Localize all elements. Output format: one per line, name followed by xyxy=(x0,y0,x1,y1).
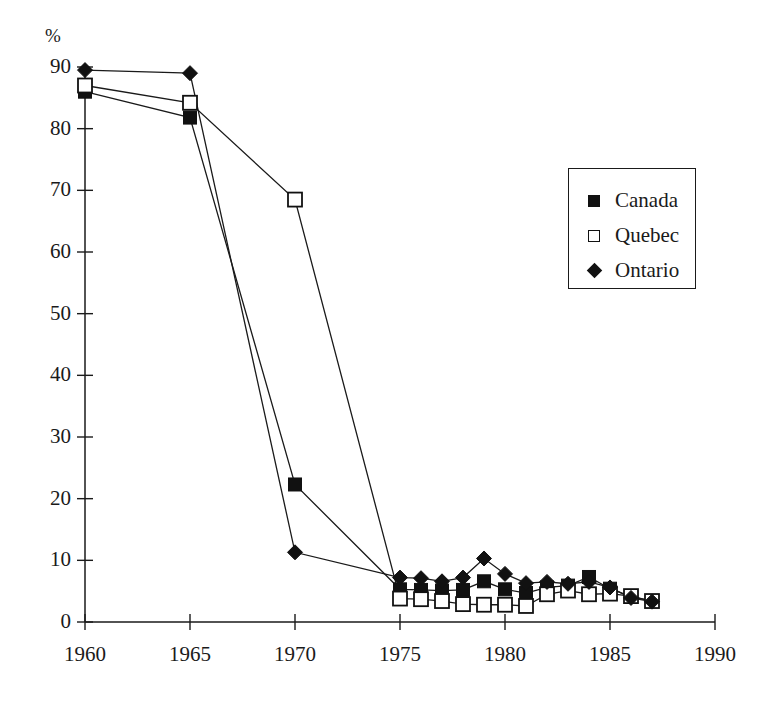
marker-quebec xyxy=(498,598,512,612)
y-tick-label: 10 xyxy=(13,547,71,572)
series-line-ontario xyxy=(85,70,652,602)
y-tick-label: 90 xyxy=(13,54,71,79)
y-tick-label: 80 xyxy=(13,116,71,141)
series-line-quebec xyxy=(85,86,652,606)
marker-quebec xyxy=(519,599,533,613)
legend-label: Canada xyxy=(615,188,678,213)
x-tick-label: 1975 xyxy=(355,642,445,667)
marker-quebec xyxy=(435,594,449,608)
open-square-icon xyxy=(588,230,600,242)
marker-quebec xyxy=(456,597,470,611)
marker-ontario xyxy=(498,566,513,581)
legend-item-canada[interactable]: Canada xyxy=(586,188,678,213)
x-tick-label: 1960 xyxy=(40,642,130,667)
marker-quebec xyxy=(393,592,407,606)
y-tick-label: 30 xyxy=(13,424,71,449)
filled-square-icon xyxy=(588,195,600,207)
marker-quebec xyxy=(78,79,92,93)
marker-quebec xyxy=(477,598,491,612)
y-tick-label: 40 xyxy=(13,362,71,387)
marker-canada xyxy=(184,111,197,124)
chart-figure: 0102030405060708090196019651970197519801… xyxy=(0,0,781,706)
legend-label: Ontario xyxy=(615,258,679,283)
legend-item-quebec[interactable]: Quebec xyxy=(586,223,679,248)
marker-canada xyxy=(289,478,302,491)
marker-ontario xyxy=(288,545,303,560)
x-tick-label: 1965 xyxy=(145,642,235,667)
marker-canada xyxy=(478,575,491,588)
marker-ontario xyxy=(78,63,93,78)
y-tick-label: 60 xyxy=(13,239,71,264)
marker-canada xyxy=(499,583,512,596)
x-tick-label: 1990 xyxy=(670,642,760,667)
marker-quebec xyxy=(288,193,302,207)
marker-ontario xyxy=(183,66,198,81)
y-tick-label: 20 xyxy=(13,486,71,511)
y-tick-label: 50 xyxy=(13,301,71,326)
x-tick-label: 1970 xyxy=(250,642,340,667)
line-chart-canvas xyxy=(0,0,781,706)
y-tick-label: 0 xyxy=(13,609,71,634)
legend-item-ontario[interactable]: Ontario xyxy=(586,258,679,283)
marker-quebec xyxy=(183,96,197,110)
marker-quebec xyxy=(414,592,428,606)
x-tick-label: 1985 xyxy=(565,642,655,667)
series-line-canada xyxy=(85,92,652,601)
x-tick-label: 1980 xyxy=(460,642,550,667)
y-axis-title: % xyxy=(45,25,61,47)
filled-diamond-icon xyxy=(586,263,602,279)
y-tick-label: 70 xyxy=(13,177,71,202)
legend-label: Quebec xyxy=(615,223,679,248)
